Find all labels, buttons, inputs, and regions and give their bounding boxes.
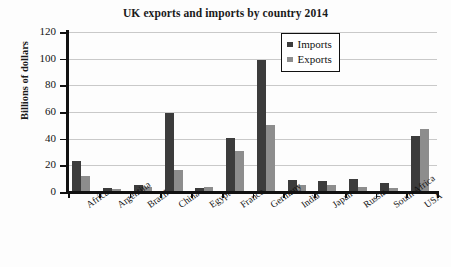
- bar-imports-germany: [257, 60, 266, 192]
- imports-swatch-icon: [287, 42, 293, 48]
- gridline: [68, 165, 437, 166]
- bar-exports-france: [235, 151, 244, 192]
- gridline: [68, 85, 437, 86]
- bar-imports-africa: [72, 161, 81, 192]
- gridline: [68, 59, 437, 60]
- y-tick-mark: [60, 192, 67, 194]
- y-tick-label: 20: [16, 158, 56, 170]
- gridline: [68, 139, 437, 140]
- legend-entry-exports: Exports: [287, 52, 332, 67]
- bar-imports-france: [226, 138, 235, 192]
- bar-chart-figure: UK exports and imports by country 2014 B…: [0, 0, 451, 267]
- y-tick-label: 80: [16, 78, 56, 90]
- bar-exports-africa: [81, 176, 90, 192]
- gridline: [68, 112, 437, 113]
- legend-entry-imports: Imports: [287, 37, 332, 52]
- legend-label-imports: Imports: [298, 39, 332, 50]
- bar-imports-china: [165, 113, 174, 192]
- bar-exports-china: [174, 170, 183, 192]
- bar-exports-germany: [266, 125, 275, 192]
- y-tick-mark: [60, 165, 67, 167]
- y-tick-label: 60: [16, 105, 56, 117]
- legend-label-exports: Exports: [298, 54, 332, 65]
- chart-title: UK exports and imports by country 2014: [0, 7, 451, 19]
- y-tick-mark: [60, 85, 67, 87]
- y-tick-mark: [60, 32, 67, 34]
- y-tick-label: 120: [16, 25, 56, 37]
- chart-legend: Imports Exports: [281, 33, 340, 72]
- x-tick-mark: [68, 192, 70, 198]
- gridline: [68, 32, 437, 33]
- y-tick-label: 0: [16, 185, 56, 197]
- y-tick-mark: [60, 59, 67, 61]
- y-tick-mark: [60, 112, 67, 114]
- y-tick-mark: [60, 139, 67, 141]
- y-tick-label: 100: [16, 52, 56, 64]
- exports-swatch-icon: [287, 57, 293, 63]
- y-tick-label: 40: [16, 132, 56, 144]
- plot-area: [68, 32, 437, 192]
